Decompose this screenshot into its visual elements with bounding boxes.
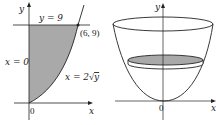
left-figure: y y = 9 (6, 9) x = 0 x = 2√y 0 x xyxy=(5,2,100,120)
curve-label: x = 2√y xyxy=(65,72,100,82)
left-x-axis-label: x xyxy=(89,106,94,116)
y-axis-arrow-icon xyxy=(27,2,31,7)
y-equals-9-label: y = 9 xyxy=(38,13,63,23)
right-y-axis-arrow-icon xyxy=(161,3,165,8)
shaded-region xyxy=(29,25,78,103)
right-y-axis-label: y xyxy=(154,2,161,12)
right-x-axis-label: x xyxy=(211,103,216,113)
left-origin-label: 0 xyxy=(30,106,35,116)
right-figure: y 0 x xyxy=(113,2,216,120)
right-origin-label: 0 xyxy=(159,103,164,113)
left-y-axis-label: y xyxy=(18,4,25,14)
x-axis-arrow-icon xyxy=(88,101,93,105)
diagram-canvas: y y = 9 (6, 9) x = 0 x = 2√y 0 x y 0 x xyxy=(0,0,216,125)
x-equals-0-label: x = 0 xyxy=(5,57,29,67)
point-6-9 xyxy=(77,24,80,27)
disk-slice xyxy=(128,55,203,69)
point-label: (6, 9) xyxy=(80,28,100,38)
